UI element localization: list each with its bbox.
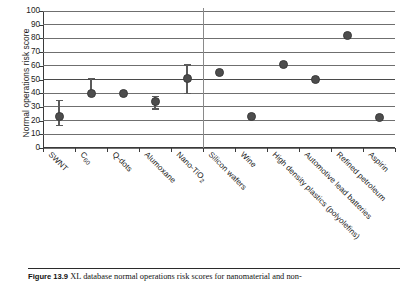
y-tick-label: 30: [14, 103, 40, 111]
gridline: [43, 106, 395, 107]
data-point-marker: [215, 68, 224, 77]
x-tick-label: C60: [78, 150, 94, 166]
data-point-marker: [119, 89, 128, 98]
y-tick-mark: [39, 134, 43, 135]
data-point-marker: [375, 113, 384, 122]
data-point-marker: [247, 112, 256, 121]
y-tick-mark: [39, 25, 43, 26]
error-bar-cap: [56, 125, 63, 126]
gridline: [43, 120, 395, 121]
y-tick-mark: [39, 52, 43, 53]
caption-number: Figure 13.9: [28, 272, 68, 281]
y-tick-mark: [39, 93, 43, 94]
y-tick-mark: [39, 107, 43, 108]
y-tick-label: 60: [14, 62, 40, 70]
data-point-marker: [183, 74, 192, 83]
gridline: [43, 38, 395, 39]
gridline: [43, 79, 395, 80]
y-tick-mark: [39, 66, 43, 67]
x-tick-label: SWNT: [47, 150, 70, 173]
data-point-marker: [151, 97, 160, 106]
data-point-marker: [55, 112, 64, 121]
data-point-marker: [279, 60, 288, 69]
gridline: [43, 11, 395, 12]
gridline: [43, 148, 395, 149]
x-tick-label: Aspirin: [367, 150, 391, 174]
y-tick-label: 40: [14, 89, 40, 97]
error-bar-cap: [56, 100, 63, 101]
y-tick-label: 70: [14, 48, 40, 56]
chart-plot-area: Normal operations risk score 01020304050…: [0, 0, 407, 160]
y-tick-label: 80: [14, 34, 40, 42]
caption-rule: [28, 268, 400, 269]
error-bar-cap: [184, 64, 191, 65]
figure-caption: Figure 13.9 XL database normal operation…: [28, 272, 400, 282]
x-tick-label: Alumoxane: [143, 150, 178, 185]
y-tick-label: 20: [14, 117, 40, 125]
y-tick-mark: [39, 121, 43, 122]
data-point-marker: [87, 89, 96, 98]
error-bar-cap: [88, 78, 95, 79]
x-tick-label: Nano-TiO2: [174, 150, 208, 184]
data-point-marker: [311, 75, 320, 84]
caption-text: XL database normal operations risk score…: [70, 272, 302, 281]
y-tick-mark: [39, 38, 43, 39]
gridline: [43, 134, 395, 135]
gridline: [43, 93, 395, 94]
y-tick-label: 0: [14, 144, 40, 152]
y-tick-mark: [39, 80, 43, 81]
gridline: [43, 24, 395, 25]
chart-axes: [43, 11, 395, 148]
x-tick-label: Wine: [239, 150, 258, 169]
group-divider-line: [203, 8, 204, 148]
y-tick-label: 50: [14, 76, 40, 84]
y-axis-tick-labels: 0102030405060708090100: [14, 0, 40, 160]
data-point-marker: [343, 31, 352, 40]
error-bar-cap: [152, 108, 159, 109]
x-tick-label: Q-dots: [111, 150, 135, 174]
y-tick-label: 10: [14, 130, 40, 138]
y-tick-mark: [39, 11, 43, 12]
y-tick-label: 100: [14, 7, 40, 15]
error-bar-cap: [184, 93, 191, 94]
x-axis-tick-labels: SWNTC60Q-dotsAlumoxaneNano-TiO2Silicon w…: [43, 150, 395, 250]
y-tick-label: 90: [14, 21, 40, 29]
x-tick-mark: [395, 148, 396, 152]
figure-container: Normal operations risk score 01020304050…: [0, 0, 407, 290]
gridline: [43, 65, 395, 66]
gridline: [43, 52, 395, 53]
